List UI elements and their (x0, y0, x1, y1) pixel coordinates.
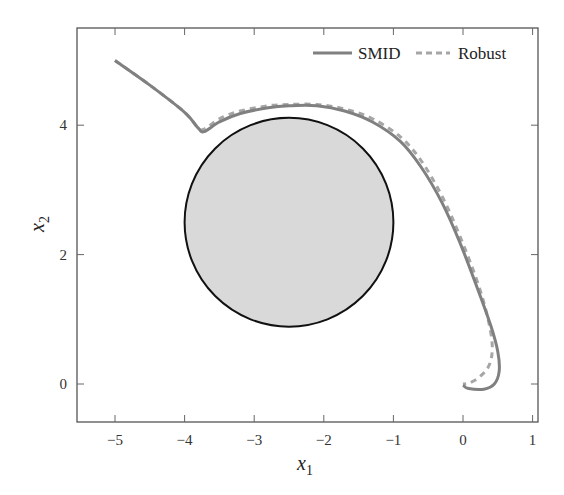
x-tick-label: −2 (316, 432, 332, 448)
chart: −5−4−3−2−101024 SMID Robust x1 x2 (0, 0, 564, 495)
x-tick-label: −1 (385, 432, 401, 448)
y-axis-label: x2 (26, 216, 52, 233)
x-axis-label: x1 (296, 452, 313, 478)
legend-label-smid: SMID (358, 44, 401, 63)
x-tick-label: −5 (107, 432, 123, 448)
obstacle-circle (185, 118, 394, 327)
y-tick-label: 2 (60, 247, 68, 263)
x-tick-label: −4 (177, 432, 193, 448)
x-tick-label: 1 (529, 432, 537, 448)
y-tick-label: 0 (60, 376, 68, 392)
y-tick-label: 4 (60, 117, 68, 133)
x-tick-label: 0 (459, 432, 467, 448)
legend-label-robust: Robust (458, 44, 506, 63)
x-tick-label: −3 (246, 432, 262, 448)
